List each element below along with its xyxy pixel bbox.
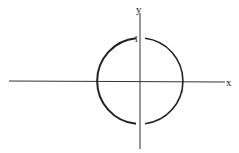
x-tick-label-one: 1 (181, 89, 184, 94)
x-axis (9, 81, 225, 82)
circle-arc-right (145, 38, 183, 123)
unit-circle-diagram: x y 1 1 (0, 0, 239, 153)
x-axis-label: x (226, 76, 232, 88)
y-tick-label-one: 1 (134, 34, 139, 44)
y-axis-label: y (136, 3, 142, 15)
